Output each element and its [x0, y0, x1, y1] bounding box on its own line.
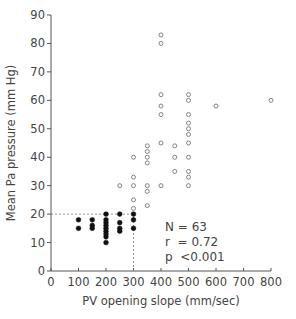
open-data-point — [132, 175, 136, 179]
x-tick-label: 600 — [205, 275, 227, 289]
open-data-point — [159, 113, 163, 117]
open-data-point — [214, 104, 218, 108]
open-data-point — [145, 204, 149, 208]
x-axis-title: PV opening slope (mm/sec) — [82, 294, 240, 308]
x-tick-label: 100 — [68, 275, 90, 289]
open-data-point — [187, 141, 191, 145]
open-data-point — [187, 169, 191, 173]
y-axis-ticks: 0102030405060708090 — [30, 8, 51, 278]
filled-data-point — [104, 212, 109, 217]
y-tick-label: 70 — [30, 65, 45, 79]
open-data-point — [118, 184, 122, 188]
stat-p: p <0.001 — [165, 250, 225, 264]
filled-data-point — [131, 217, 136, 222]
filled-data-point — [90, 217, 95, 222]
open-data-point — [187, 93, 191, 97]
y-axis-title: Mean Pa pressure (mm Hg) — [4, 65, 18, 221]
y-tick-label: 0 — [38, 264, 45, 278]
x-tick-label: 800 — [260, 275, 282, 289]
y-tick-label: 30 — [30, 179, 45, 193]
open-data-point — [145, 144, 149, 148]
y-tick-label: 20 — [30, 207, 45, 221]
plot-area: 0102030405060708090 01002003004005006007… — [30, 8, 282, 289]
filled-data-point — [104, 234, 109, 239]
x-tick-label: 700 — [233, 275, 255, 289]
data-points — [76, 33, 273, 245]
open-data-point — [173, 155, 177, 159]
open-data-point — [159, 93, 163, 97]
filled-data-point — [117, 229, 122, 234]
open-data-point — [159, 33, 163, 37]
open-data-point — [187, 155, 191, 159]
open-data-point — [187, 98, 191, 102]
open-data-point — [187, 121, 191, 125]
open-data-point — [145, 161, 149, 165]
y-tick-label: 40 — [30, 150, 45, 164]
open-data-point — [173, 144, 177, 148]
open-data-point — [269, 98, 273, 102]
filled-data-point — [117, 212, 122, 217]
open-data-point — [187, 113, 191, 117]
y-tick-label: 90 — [30, 8, 45, 22]
stats-annotation: N = 63 r = 0.72 p <0.001 — [165, 220, 225, 264]
filled-data-point — [131, 212, 136, 217]
filled-data-point — [90, 226, 95, 231]
y-tick-label: 80 — [30, 36, 45, 50]
stat-n: N = 63 — [165, 220, 207, 234]
open-data-point — [173, 169, 177, 173]
open-data-point — [159, 184, 163, 188]
filled-data-point — [104, 240, 109, 245]
filled-data-point — [131, 226, 136, 231]
scatter-chart: 0102030405060708090 01002003004005006007… — [0, 0, 296, 319]
stat-r: r = 0.72 — [165, 235, 218, 249]
x-tick-label: 0 — [47, 275, 54, 289]
open-data-point — [132, 206, 136, 210]
x-tick-label: 400 — [150, 275, 172, 289]
open-data-point — [132, 184, 136, 188]
filled-data-point — [117, 220, 122, 225]
y-tick-label: 50 — [30, 122, 45, 136]
filled-data-point — [76, 217, 81, 222]
x-tick-label: 200 — [95, 275, 117, 289]
open-data-point — [145, 155, 149, 159]
y-tick-label: 10 — [30, 236, 45, 250]
x-tick-label: 300 — [123, 275, 145, 289]
filled-data-point — [104, 223, 109, 228]
x-tick-label: 500 — [178, 275, 200, 289]
open-data-point — [187, 175, 191, 179]
open-data-point — [159, 104, 163, 108]
open-data-point — [159, 41, 163, 45]
open-data-point — [145, 150, 149, 154]
open-data-point — [187, 127, 191, 131]
filled-data-point — [76, 226, 81, 231]
open-data-point — [132, 155, 136, 159]
open-data-point — [159, 141, 163, 145]
open-data-point — [187, 184, 191, 188]
open-data-point — [145, 184, 149, 188]
open-data-point — [187, 132, 191, 136]
y-tick-label: 60 — [30, 93, 45, 107]
open-data-point — [132, 198, 136, 202]
open-data-point — [145, 189, 149, 193]
